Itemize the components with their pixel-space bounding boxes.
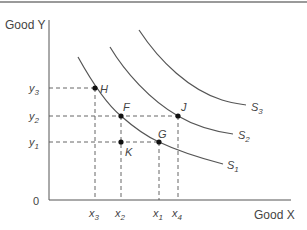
y-axis-title: Good Y bbox=[5, 18, 45, 32]
tick-x1: x1 bbox=[152, 207, 163, 222]
tick-x4: x4 bbox=[171, 207, 183, 222]
indifference-curve-diagram: H F J G K S1 S2 S3 y3 y2 y1 x3 x2 x1 x4 … bbox=[0, 0, 307, 230]
point-g bbox=[156, 139, 161, 144]
tick-y1: y1 bbox=[28, 136, 39, 151]
x-axis-title: Good X bbox=[254, 208, 295, 222]
tick-x2: x2 bbox=[114, 207, 126, 222]
label-h: H bbox=[100, 83, 108, 95]
point-f bbox=[118, 113, 123, 118]
point-j bbox=[175, 113, 180, 118]
tick-x3: x3 bbox=[88, 207, 100, 222]
tick-y2: y2 bbox=[28, 110, 40, 125]
label-g: G bbox=[158, 128, 167, 140]
label-j: J bbox=[180, 101, 187, 113]
tick-y3: y3 bbox=[28, 82, 40, 97]
curve-s3 bbox=[139, 30, 246, 105]
curve-s1 bbox=[78, 57, 223, 164]
curve-s2 bbox=[110, 47, 233, 134]
label-f: F bbox=[123, 101, 131, 113]
origin-label: 0 bbox=[33, 195, 39, 207]
point-k bbox=[118, 139, 123, 144]
label-k: K bbox=[125, 146, 133, 158]
label-s2: S2 bbox=[238, 129, 250, 144]
point-h bbox=[92, 85, 97, 90]
label-s3: S3 bbox=[251, 101, 263, 116]
label-s1: S1 bbox=[227, 159, 239, 174]
